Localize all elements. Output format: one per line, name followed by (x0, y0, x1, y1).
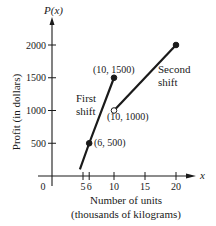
y-tick-label: 2000 (26, 40, 46, 51)
second-shift-label-line1: Second (158, 63, 191, 75)
x-tick-label: 15 (140, 181, 150, 192)
x-tick-label: 10 (109, 181, 119, 192)
x-tick-label: 5 (81, 181, 86, 192)
y-axis-arrow-icon (50, 17, 55, 25)
second-shift-label-line2: shift (158, 76, 178, 88)
first-shift-label-line2: shift (76, 105, 96, 117)
closed-point-marker (111, 75, 117, 81)
x-axis-arrow-icon (186, 174, 196, 179)
y-tick-label: 1500 (26, 72, 46, 83)
y-tick-label: 1000 (26, 105, 46, 116)
origin-label: 0 (41, 181, 46, 192)
point-label-6-500: (6, 500) (94, 137, 126, 149)
y-tick-label: 500 (31, 138, 46, 149)
axes (38, 17, 196, 186)
profit-chart: 500100015002000 56101520 P(x) x 0 Profit… (0, 0, 216, 226)
point-label-10-1500: (10, 1500) (93, 64, 135, 76)
closed-point-marker (173, 42, 179, 48)
y-axis-symbol: P(x) (43, 4, 63, 17)
y-axis-label: Profit (in dollars) (10, 73, 23, 150)
x-tick-label: 6 (87, 181, 92, 192)
first-shift-label-line1: First (76, 92, 96, 104)
closed-point-marker (86, 140, 92, 146)
x-axis-label-line2: (thousands of kilograms) (71, 208, 181, 221)
x-axis-symbol: x (199, 169, 205, 181)
x-axis-label-line1: Number of units (90, 194, 162, 206)
point-label-10-1000: (10, 1000) (107, 111, 149, 123)
x-ticks: 56101520 (81, 172, 182, 192)
x-tick-label: 20 (171, 181, 181, 192)
